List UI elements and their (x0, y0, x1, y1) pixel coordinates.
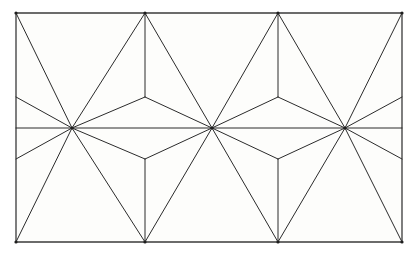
hub-dot-top-hub-1 (143, 11, 146, 14)
hub-dot-hub-right (343, 126, 346, 129)
tessellation-figure (0, 0, 414, 257)
hub-dot-hub-center (210, 126, 213, 129)
hub-dot-top-hub-3 (400, 11, 403, 14)
figure-root (0, 0, 414, 257)
hub-dot-hub-left (70, 126, 73, 129)
hub-dot-top-hub-2 (276, 11, 279, 14)
hub-dot-bottom-hub-2 (276, 240, 279, 243)
hub-dot-top-hub-0 (14, 11, 17, 14)
hub-dot-bottom-hub-3 (400, 240, 403, 243)
hub-dot-bottom-hub-1 (143, 240, 146, 243)
hub-dot-bottom-hub-0 (14, 240, 17, 243)
